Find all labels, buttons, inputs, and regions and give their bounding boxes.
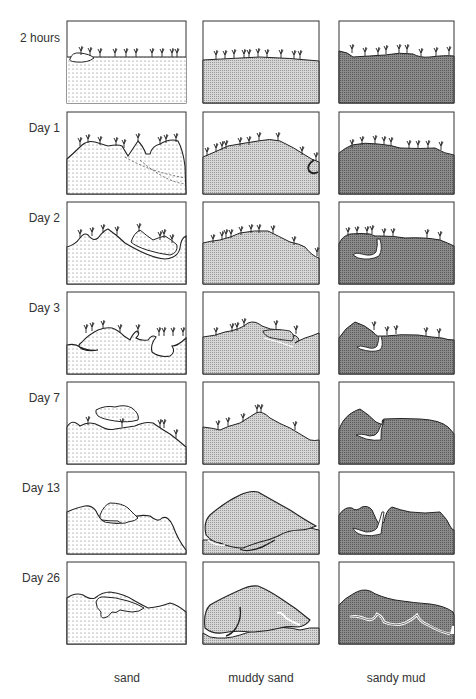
panel-day-1-sand bbox=[67, 112, 186, 194]
panel-2-hours-muddy-sand bbox=[203, 21, 319, 103]
panel-day-7-muddy-sand bbox=[203, 382, 319, 464]
panel-day-13-sandy-mud bbox=[339, 472, 454, 554]
panel-day-2-sandy-mud bbox=[339, 202, 454, 284]
panel-day-1-muddy-sand bbox=[203, 112, 319, 194]
panel-day-13-sand bbox=[67, 472, 186, 554]
sediment-profile-grid bbox=[0, 0, 476, 699]
panel-day-7-sandy-mud bbox=[339, 382, 454, 464]
panel-day-3-sand bbox=[67, 292, 186, 374]
panel-day-26-muddy-sand bbox=[203, 562, 319, 644]
panel-day-7-sand bbox=[67, 382, 186, 464]
panel-day-2-sand bbox=[67, 202, 186, 284]
panel-2-hours-sandy-mud bbox=[339, 21, 454, 103]
panel-day-1-sandy-mud bbox=[339, 112, 454, 194]
panel-day-2-muddy-sand bbox=[203, 202, 319, 284]
panel-2-hours-sand bbox=[67, 21, 186, 103]
panel-day-3-sandy-mud bbox=[339, 292, 454, 374]
panel-day-26-sand bbox=[67, 562, 186, 644]
panel-day-13-muddy-sand bbox=[203, 472, 319, 554]
panel-day-3-muddy-sand bbox=[203, 292, 319, 374]
panel-day-26-sandy-mud bbox=[339, 562, 454, 644]
